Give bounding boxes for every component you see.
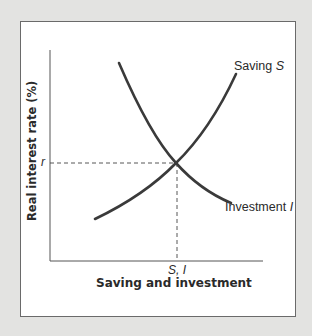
y-axis-label: Real interest rate (%) — [25, 89, 39, 221]
x-tick-si: S, I — [168, 263, 186, 277]
chart-panel: Saving S Investment I r S, I Saving and … — [0, 0, 312, 336]
saving-curve — [95, 74, 236, 219]
investment-curve-label: Investment I — [225, 200, 293, 214]
x-axis-label: Saving and investment — [96, 276, 252, 290]
saving-curve-label: Saving S — [234, 59, 284, 73]
y-tick-r: r — [41, 155, 45, 169]
investment-curve — [119, 63, 231, 203]
